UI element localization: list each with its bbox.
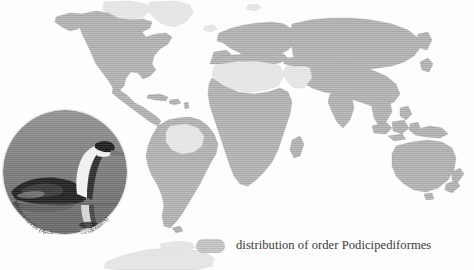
region-caribbean-lesser-antilles <box>184 102 189 109</box>
western-grebe-photo <box>3 110 127 234</box>
western-grebe-photo-svg <box>3 110 127 234</box>
distribution-map-figure: .dist { fill:#a9a9a9; stroke:#9d9d9d; st… <box>0 0 474 270</box>
map-legend: distribution of order Podicipediformes <box>196 238 431 253</box>
legend-swatch-distribution <box>196 239 225 253</box>
region-tasmania <box>424 193 434 200</box>
legend-label: distribution of order Podicipediformes <box>236 238 431 253</box>
